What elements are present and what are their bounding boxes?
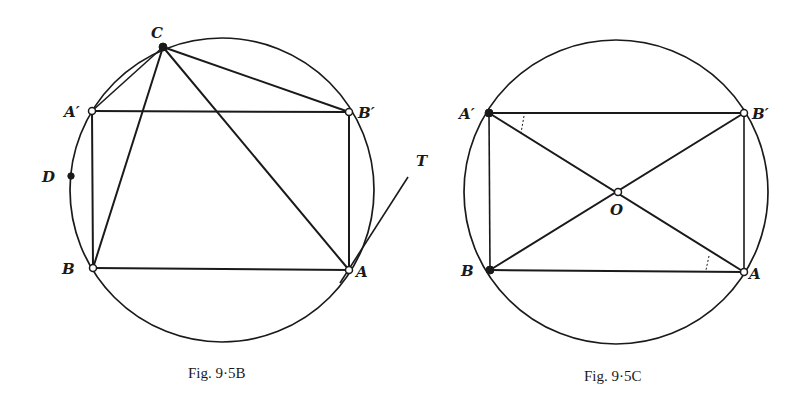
label-B: B: [460, 262, 474, 280]
point-O: [615, 189, 622, 196]
segment-AB: [490, 270, 744, 272]
label-B1: B′: [751, 105, 769, 123]
segment-BA1: [489, 113, 490, 270]
label-O: O: [610, 201, 623, 219]
label-B1: B′: [357, 104, 375, 122]
point-B: [486, 266, 494, 274]
label-D: D: [41, 168, 55, 186]
segment-A1B1: [92, 111, 349, 112]
angle-mark-A1: [521, 116, 524, 133]
segment-AB: [93, 268, 349, 270]
circumcircle-B: [70, 38, 374, 342]
caption-fig-9-5B: Fig. 9·5B: [188, 365, 246, 381]
figure-9-5C: A′ B′ O B A Fig. 9·5C: [457, 40, 769, 384]
label-A1: A′: [62, 103, 80, 121]
segment-BA1: [92, 111, 93, 268]
label-A1: A′: [457, 105, 475, 123]
angle-mark-A: [706, 256, 709, 270]
figure-9-5B: C A′ B′ D B A T Fig. 9·5B: [41, 24, 429, 381]
point-C: [159, 43, 167, 51]
point-B1: [346, 109, 353, 116]
label-B: B: [61, 260, 75, 278]
point-D: [68, 173, 74, 179]
caption-fig-9-5C: Fig. 9·5C: [584, 368, 642, 384]
point-B: [90, 265, 97, 272]
label-A: A: [747, 265, 761, 283]
segment-CB: [93, 47, 163, 268]
point-B1: [741, 110, 748, 117]
label-T: T: [416, 152, 429, 170]
label-A: A: [354, 263, 368, 281]
point-A1: [485, 109, 493, 117]
figure-canvas: C A′ B′ D B A T Fig. 9·5B A′ B′ O B A: [0, 0, 809, 409]
point-A: [741, 269, 748, 276]
point-A: [346, 267, 353, 274]
point-A1: [89, 108, 96, 115]
label-C: C: [151, 24, 163, 42]
